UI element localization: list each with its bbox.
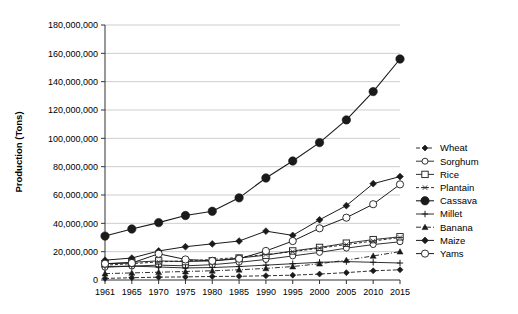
data-point-marker xyxy=(397,260,403,266)
legend-item-yams[interactable]: Yams xyxy=(416,248,464,259)
series-path xyxy=(105,237,400,264)
series-path xyxy=(105,270,400,279)
series-maize xyxy=(102,173,404,263)
x-tick-label: 2015 xyxy=(390,287,410,297)
data-point-marker xyxy=(370,201,377,208)
data-point-marker xyxy=(156,274,162,280)
legend-item-banana[interactable]: Banana xyxy=(416,222,473,233)
legend-marker xyxy=(422,211,428,217)
data-point-marker xyxy=(154,218,162,226)
data-point-marker xyxy=(289,157,297,165)
legend-label: Wheat xyxy=(440,142,468,153)
series-group xyxy=(101,55,404,282)
data-point-marker xyxy=(369,87,377,95)
data-point-marker xyxy=(370,268,376,274)
series-plantain xyxy=(102,235,403,267)
legend-item-rice[interactable]: Rice xyxy=(416,169,459,180)
data-point-marker xyxy=(343,214,350,221)
legend-item-maize[interactable]: Maize xyxy=(416,235,465,246)
legend-label: Plantain xyxy=(440,182,474,193)
y-tick-label: 60,000,000 xyxy=(53,190,98,200)
x-tick-label: 2000 xyxy=(310,287,330,297)
legend-marker xyxy=(422,237,429,244)
data-point-marker xyxy=(181,211,189,219)
x-tick-label: 1980 xyxy=(202,287,222,297)
data-point-marker xyxy=(209,240,216,247)
y-tick-label: 100,000,000 xyxy=(48,134,98,144)
legend-item-sorghum[interactable]: Sorghum xyxy=(416,156,479,167)
data-point-marker xyxy=(397,234,403,240)
data-point-marker xyxy=(182,256,189,263)
legend-item-plantain[interactable]: Plantain xyxy=(416,182,474,193)
data-point-marker xyxy=(397,173,404,180)
legend-marker xyxy=(422,185,428,190)
data-point-marker xyxy=(262,247,269,254)
legend-item-cassava[interactable]: Cassava xyxy=(416,195,478,206)
y-axis-title: Production (Tons) xyxy=(13,111,24,192)
data-point-marker xyxy=(396,55,404,63)
data-point-marker xyxy=(289,237,296,244)
legend: WheatSorghumRicePlantainCassavaMilletBan… xyxy=(416,142,479,259)
legend-marker xyxy=(421,250,428,257)
y-tick-label: 40,000,000 xyxy=(53,219,98,229)
data-point-marker xyxy=(317,261,323,266)
x-axis-group: 1961196519701975198019851990199520002005… xyxy=(95,280,410,297)
y-tick-label: 20,000,000 xyxy=(53,247,98,257)
series-path xyxy=(105,262,400,268)
data-point-marker xyxy=(342,116,350,124)
data-point-marker xyxy=(343,270,349,276)
data-point-marker xyxy=(396,181,403,188)
legend-label: Cassava xyxy=(440,195,478,206)
x-tick-label: 1965 xyxy=(122,287,142,297)
legend-item-wheat[interactable]: Wheat xyxy=(416,142,468,153)
y-axis-group: 020,000,00040,000,00060,000,00080,000,00… xyxy=(48,20,105,285)
legend-label: Millet xyxy=(440,208,463,219)
x-tick-label: 1995 xyxy=(283,287,303,297)
data-point-marker xyxy=(370,259,376,265)
data-point-marker xyxy=(290,272,296,278)
data-point-marker xyxy=(101,260,108,267)
y-tick-label: 160,000,000 xyxy=(48,49,98,59)
data-point-marker xyxy=(236,238,243,245)
y-tick-label: 80,000,000 xyxy=(53,162,98,172)
data-point-marker xyxy=(155,258,161,264)
data-point-marker xyxy=(128,225,136,233)
data-point-marker xyxy=(128,259,135,266)
legend-marker xyxy=(421,197,429,205)
gridlines-group xyxy=(105,25,400,252)
x-tick-label: 2005 xyxy=(336,287,356,297)
data-point-marker xyxy=(102,275,108,281)
y-tick-label: 180,000,000 xyxy=(48,20,98,30)
data-point-marker xyxy=(235,194,243,202)
series-cassava xyxy=(101,55,404,240)
data-point-marker xyxy=(262,174,270,182)
legend-label: Rice xyxy=(440,169,459,180)
legend-marker xyxy=(422,171,428,177)
y-tick-label: 140,000,000 xyxy=(48,77,98,87)
legend-marker xyxy=(422,145,428,151)
data-point-marker xyxy=(235,255,242,262)
production-line-chart: 020,000,00040,000,00060,000,00080,000,00… xyxy=(0,0,518,314)
data-point-marker xyxy=(370,236,376,242)
x-tick-label: 1990 xyxy=(256,287,276,297)
data-point-marker xyxy=(208,207,216,215)
data-point-marker xyxy=(236,273,242,279)
data-point-marker xyxy=(182,274,188,280)
x-tick-label: 1961 xyxy=(95,287,115,297)
y-tick-label: 0 xyxy=(93,275,98,285)
legend-label: Maize xyxy=(440,235,465,246)
legend-item-millet[interactable]: Millet xyxy=(416,208,463,219)
data-point-marker xyxy=(343,240,349,246)
data-point-marker xyxy=(316,216,323,223)
data-point-marker xyxy=(316,225,323,232)
data-point-marker xyxy=(209,268,215,273)
data-point-marker xyxy=(397,267,403,273)
y-tick-label: 120,000,000 xyxy=(48,105,98,115)
x-tick-label: 1985 xyxy=(229,287,249,297)
data-point-marker xyxy=(182,243,189,250)
chart-canvas: 020,000,00040,000,00060,000,00080,000,00… xyxy=(0,0,518,314)
x-tick-label: 1975 xyxy=(175,287,195,297)
x-tick-label: 2010 xyxy=(363,287,383,297)
data-point-marker xyxy=(263,228,270,235)
data-point-marker xyxy=(315,138,323,146)
